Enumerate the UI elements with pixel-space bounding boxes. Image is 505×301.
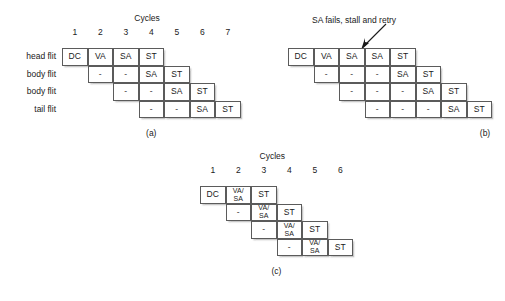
cycle-number-6: 6: [190, 27, 216, 37]
grid-cell: DC: [288, 48, 314, 66]
grid-cell: VA/ SA: [277, 221, 303, 239]
grid-cell: -: [365, 66, 391, 84]
grid-cell: ST: [467, 101, 493, 119]
cycle-number-3: 3: [251, 165, 277, 175]
grid-cell: SA: [416, 83, 442, 101]
cycle-number-2: 2: [88, 27, 114, 37]
cycle-number-6: 6: [328, 165, 354, 175]
grid-cell: ST: [139, 48, 165, 66]
grid-cell: -: [113, 83, 139, 101]
panel-a-caption: (a): [131, 128, 171, 138]
panel-a-row-labels: head flitbody flitbody flittail flit: [8, 48, 56, 118]
grid-cell: -: [88, 66, 114, 84]
figure-root: Cycles 1234567 head flitbody flitbody fl…: [0, 0, 505, 301]
cycle-number-3: 3: [113, 27, 139, 37]
grid-cell: -: [113, 66, 139, 84]
row-label-3: tail flit: [8, 101, 56, 119]
grid-cell: -: [365, 101, 391, 119]
row-label-0: head flit: [8, 48, 56, 66]
grid-cell: -: [339, 83, 365, 101]
grid-cell: -: [139, 83, 165, 101]
cycle-number-1: 1: [200, 165, 226, 175]
grid-cell: SA: [164, 83, 190, 101]
grid-cell: ST: [390, 48, 416, 66]
grid-cell: SA: [365, 48, 391, 66]
grid-cell: DC: [200, 186, 226, 204]
cycle-number-4: 4: [277, 165, 303, 175]
panel-a-cycles-title: Cycles: [134, 13, 160, 23]
cycle-number-5: 5: [302, 165, 328, 175]
grid-cell: -: [314, 66, 340, 84]
grid-cell: ST: [190, 83, 216, 101]
grid-cell: VA: [88, 48, 114, 66]
grid-cell: -: [251, 221, 277, 239]
grid-cell: VA/ SA: [302, 239, 328, 257]
grid-cell: VA/ SA: [251, 204, 277, 222]
grid-cell: DC: [62, 48, 88, 66]
grid-cell: ST: [251, 186, 277, 204]
grid-cell: -: [164, 101, 190, 119]
grid-cell: -: [365, 83, 391, 101]
grid-cell: ST: [328, 239, 354, 257]
panel-c-caption: (c): [257, 266, 297, 276]
grid-cell: SA: [139, 66, 165, 84]
panel-c-cycles-title: Cycles: [260, 151, 286, 161]
panel-b-caption: (b): [470, 128, 500, 138]
cycle-number-4: 4: [139, 27, 165, 37]
row-label-2: body flit: [8, 83, 56, 101]
cycle-number-2: 2: [226, 165, 252, 175]
grid-cell: -: [390, 101, 416, 119]
grid-cell: ST: [441, 83, 467, 101]
cycle-number-1: 1: [62, 27, 88, 37]
grid-cell: -: [226, 204, 252, 222]
grid-cell: ST: [416, 66, 442, 84]
grid-cell: VA/ SA: [226, 186, 252, 204]
grid-cell: -: [339, 66, 365, 84]
grid-cell: SA: [390, 66, 416, 84]
panel-c-cycle-numbers: 123456: [200, 165, 353, 175]
grid-cell: ST: [277, 204, 303, 222]
grid-cell: ST: [302, 221, 328, 239]
row-label-1: body flit: [8, 66, 56, 84]
grid-cell: VA: [314, 48, 340, 66]
grid-cell: -: [139, 101, 165, 119]
grid-cell: SA: [339, 48, 365, 66]
grid-cell: ST: [215, 101, 241, 119]
grid-cell: SA: [441, 101, 467, 119]
cycle-number-7: 7: [215, 27, 241, 37]
cycle-number-5: 5: [164, 27, 190, 37]
grid-cell: SA: [190, 101, 216, 119]
grid-cell: -: [390, 83, 416, 101]
grid-cell: SA: [113, 48, 139, 66]
grid-cell: -: [277, 239, 303, 257]
grid-cell: -: [416, 101, 442, 119]
panel-a-cycle-numbers: 1234567: [62, 27, 241, 37]
grid-cell: ST: [164, 66, 190, 84]
